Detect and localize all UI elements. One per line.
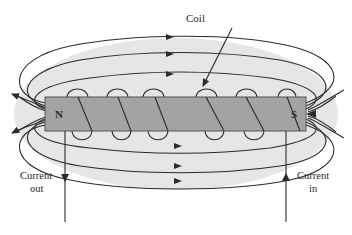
diagram-canvas: N S Coil Current out Current in [0, 0, 352, 235]
iron-core-bar [45, 97, 306, 131]
current-in-label-line2: in [309, 183, 318, 194]
south-pole-label: S [291, 108, 297, 120]
arrow-up-icon [282, 173, 290, 181]
north-pole-label: N [55, 108, 63, 120]
current-in-label-line1: Current [297, 170, 329, 181]
current-out-label-line1: Current [20, 170, 52, 181]
current-out-label-line2: out [30, 183, 44, 194]
electromagnet-diagram: N S Coil Current out Current in [0, 0, 352, 235]
coil-label: Coil [186, 12, 205, 24]
